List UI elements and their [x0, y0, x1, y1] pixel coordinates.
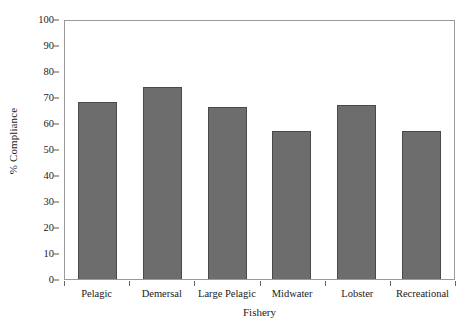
x-axis-category-label: Midwater [260, 288, 325, 304]
x-axis-title-text: Fishery [243, 306, 276, 318]
y-axis-tick-label: 100 [38, 15, 54, 26]
y-axis-tick-mark [54, 98, 59, 99]
y-axis-tick-mark [54, 150, 59, 151]
y-axis-tick-mark [54, 254, 59, 255]
bar-series [65, 21, 454, 279]
x-axis-category-label: Demersal [129, 288, 194, 304]
x-axis-tick-marks [64, 281, 455, 287]
y-axis-tick-label: 90 [44, 41, 55, 52]
x-axis-category-label: Pelagic [64, 288, 129, 304]
bar-slot [324, 21, 389, 279]
y-axis-tick-label: 30 [44, 197, 55, 208]
bar-slot [130, 21, 195, 279]
x-axis-tick-mark [64, 281, 65, 286]
y-axis-tick-labels: 0102030405060708090100 [28, 20, 60, 280]
y-axis-tick-label: 50 [44, 145, 55, 156]
y-axis-tick-label: 20 [44, 223, 55, 234]
y-axis-title: % Compliance [0, 0, 26, 282]
bar-chart: % Compliance 0102030405060708090100 Pela… [0, 0, 475, 333]
x-axis-tick-mark [390, 281, 391, 286]
y-axis-title-text: % Compliance [7, 108, 19, 174]
x-axis-category-labels: PelagicDemersalLarge PelagicMidwaterLobs… [64, 288, 455, 304]
x-axis-category-label: Recreational [390, 288, 455, 304]
bar [337, 105, 376, 279]
bar [78, 102, 117, 279]
y-axis-tick-mark [54, 176, 59, 177]
x-axis-category-label: Large Pelagic [194, 288, 259, 304]
x-axis-tick-mark [260, 281, 261, 286]
y-axis-tick-mark [54, 46, 59, 47]
x-axis-category-label: Lobster [325, 288, 390, 304]
plot-area [64, 20, 455, 280]
bar [208, 107, 247, 279]
y-axis-tick-mark [54, 124, 59, 125]
bar-slot [259, 21, 324, 279]
bar [143, 87, 182, 279]
bar-slot [65, 21, 130, 279]
bar [272, 131, 311, 279]
y-axis-tick-mark [54, 20, 59, 21]
y-axis-tick-label: 40 [44, 171, 55, 182]
x-axis-tick-mark [194, 281, 195, 286]
bar-slot [195, 21, 260, 279]
y-axis-tick-mark [54, 202, 59, 203]
y-axis-tick-mark [54, 228, 59, 229]
y-axis-tick-mark [54, 280, 59, 281]
y-axis-tick-label: 60 [44, 119, 55, 130]
x-axis-title: Fishery [64, 306, 455, 318]
y-axis-tick-mark [54, 72, 59, 73]
x-axis-tick-mark [129, 281, 130, 286]
y-axis-tick-label: 80 [44, 67, 55, 78]
bar [402, 131, 441, 279]
y-axis-tick-label: 10 [44, 249, 55, 260]
bar-slot [389, 21, 454, 279]
x-axis-tick-mark [455, 281, 456, 286]
x-axis-tick-mark [325, 281, 326, 286]
y-axis-tick-label: 70 [44, 93, 55, 104]
